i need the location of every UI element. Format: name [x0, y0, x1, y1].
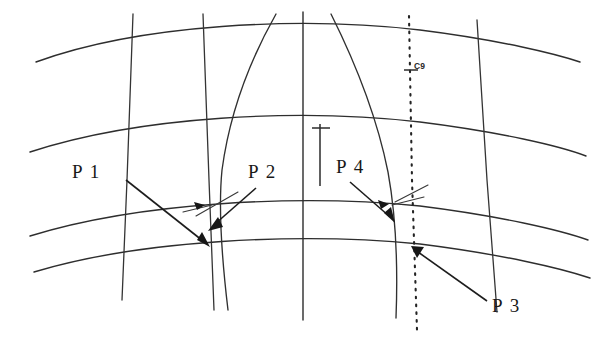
point-label-p1: P 1 [72, 161, 101, 182]
grid-vertical-2 [203, 14, 214, 310]
arc-line-2 [30, 115, 586, 156]
tick-hair-p2-a [196, 192, 238, 216]
station-label-c9: C9 [414, 61, 425, 71]
point-label-p3: P 3 [492, 295, 521, 316]
arc-line-1 [36, 24, 580, 62]
arc-line-3 [30, 201, 588, 240]
point-label-p4: P 4 [336, 156, 365, 177]
arc-line-4 [34, 239, 590, 278]
point-label-p2: P 2 [248, 161, 277, 182]
leader-line-p3 [418, 252, 487, 301]
grid-vertical-1 [122, 14, 133, 300]
arrow-head-p3 [411, 246, 424, 258]
technical-diagram: P 1 P 2 P 4 P 3 C9 [0, 0, 597, 358]
arrow-head-p1 [197, 232, 210, 247]
grid-vertical-3 [477, 20, 497, 312]
leader-line-p4 [350, 182, 389, 216]
diagram-canvas: P 1 P 2 P 4 P 3 C9 [0, 0, 597, 358]
